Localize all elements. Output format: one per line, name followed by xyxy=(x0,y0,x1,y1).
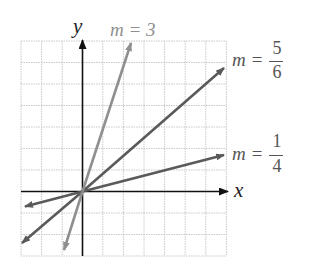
grid xyxy=(21,41,226,256)
label-slope-one-quarter: m = xyxy=(232,143,263,165)
y-axis-label: y xyxy=(73,14,82,39)
label-slope-five-sixths: m = xyxy=(232,49,263,71)
label-slope-one-quarter-denominator: 4 xyxy=(270,156,284,177)
x-axis-label: x xyxy=(234,178,243,203)
label-slope-one-quarter-numerator: 1 xyxy=(270,131,284,152)
label-slope-five-sixths-numerator: 5 xyxy=(270,38,284,59)
label-slope-five-sixths-denominator: 6 xyxy=(270,62,284,83)
label-slope-three: m = 3 xyxy=(110,19,156,41)
